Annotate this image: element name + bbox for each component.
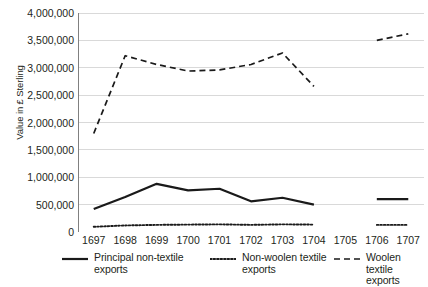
x-tick-label: 1707 (397, 234, 420, 246)
series-line-2 (377, 34, 408, 41)
plot-area (78, 13, 424, 232)
chart-legend: Principal non-textile exportsNon-woolen … (62, 252, 428, 278)
x-tick-label: 1701 (208, 234, 231, 246)
y-tick-label: 1,500,000 (12, 145, 74, 155)
y-tick-label: 500,000 (12, 200, 74, 210)
y-tick-label: 3,000,000 (12, 63, 74, 73)
y-axis-tick-labels: 0500,0001,000,0001,500,0002,000,0002,500… (12, 0, 74, 278)
series-line-0 (94, 184, 314, 209)
y-tick-label: 3,500,000 (12, 35, 74, 45)
legend-label-1: Non-woolen textile exports (242, 252, 327, 275)
y-tick-label: 1,000,000 (12, 172, 74, 182)
legend-item-2: Woolen textile exports (334, 252, 428, 287)
legend-item-0: Principal non-textile exports (62, 252, 184, 275)
x-axis-tick-labels: 1697169816991700170117021703170417051706… (78, 234, 424, 250)
y-tick-label: 2,500,000 (12, 90, 74, 100)
legend-swatch-solid-icon (62, 253, 88, 264)
legend-label-2: Woolen textile exports (366, 252, 428, 287)
x-tick-label: 1705 (334, 234, 357, 246)
legend-item-1: Non-woolen textile exports (210, 252, 327, 275)
series-line-1 (94, 224, 314, 226)
chart-canvas (78, 13, 424, 232)
series-line-2 (94, 53, 314, 133)
legend-swatch-dashed-icon (334, 253, 360, 264)
legend-label-0: Principal non-textile exports (94, 252, 184, 275)
x-tick-label: 1697 (82, 234, 105, 246)
x-tick-label: 1704 (302, 234, 325, 246)
x-tick-label: 1698 (113, 234, 136, 246)
x-tick-label: 1703 (271, 234, 294, 246)
x-tick-label: 1699 (145, 234, 168, 246)
y-tick-label: 0 (12, 227, 74, 237)
legend-swatch-dotted-icon (210, 253, 236, 264)
y-tick-label: 4,000,000 (12, 8, 74, 18)
x-tick-label: 1706 (365, 234, 388, 246)
x-tick-label: 1700 (176, 234, 199, 246)
x-tick-label: 1702 (239, 234, 262, 246)
y-tick-label: 2,000,000 (12, 118, 74, 128)
